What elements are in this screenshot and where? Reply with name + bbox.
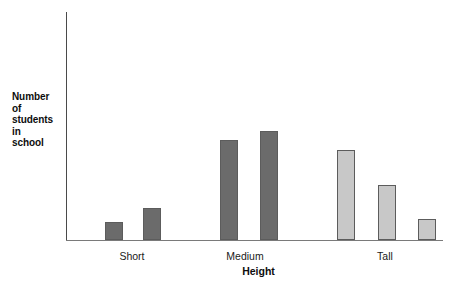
x-tick-label-tall: Tall — [345, 250, 425, 262]
y-axis-label: Number of students in school — [12, 91, 64, 149]
bar — [337, 150, 355, 240]
y-axis-label-line-3: students — [12, 114, 64, 126]
y-axis-label-line-4: in — [12, 126, 64, 138]
y-axis-label-line-2: of — [12, 103, 64, 115]
bar-chart: Number of students in school Short Mediu… — [0, 0, 461, 295]
bar — [143, 208, 161, 240]
bar — [220, 140, 238, 240]
x-tick-label-short: Short — [92, 250, 172, 262]
bar — [418, 219, 436, 240]
bar — [378, 185, 396, 240]
bar — [260, 131, 278, 240]
x-axis-title-text: Height — [242, 265, 275, 277]
y-axis-label-line-5: school — [12, 137, 64, 149]
x-tick-label-medium: Medium — [205, 250, 285, 262]
bar — [105, 222, 123, 240]
y-axis-label-line-1: Number — [12, 91, 64, 103]
x-axis-title: Height — [0, 265, 461, 277]
